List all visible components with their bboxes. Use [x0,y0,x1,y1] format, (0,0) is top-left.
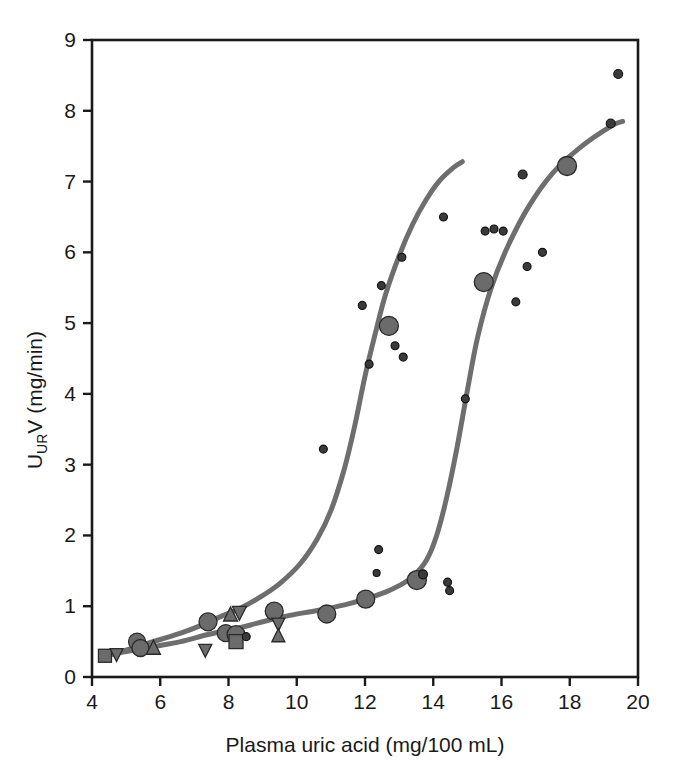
marker-dot [365,360,373,368]
marker-circle [199,613,217,631]
marker-dot [358,301,366,309]
y-axis-ticks [83,40,92,677]
marker-circle [558,156,577,175]
scatter-plot: 468101214161820 0123456789 Plasma uric a… [0,0,673,776]
marker-circle [474,273,493,292]
x-tick-label: 20 [626,690,649,713]
marker-square [98,649,111,662]
marker-dot [606,119,615,128]
x-tick-label: 18 [558,690,581,713]
y-tick-label: 1 [64,594,76,617]
y-axis-tick-labels: 0123456789 [64,28,76,688]
x-axis-title: Plasma uric acid (mg/100 mL) [226,733,505,756]
marker-dot [377,282,385,290]
marker-dot [538,248,546,256]
marker-circle [357,590,375,608]
marker-dot [444,578,452,586]
marker-dot [490,225,498,233]
marker-dot [375,546,383,554]
marker-dot [398,253,406,261]
marker-dot [481,227,489,235]
marker-circle [379,316,398,335]
y-tick-label: 8 [64,99,76,122]
marker-dot [461,395,469,403]
y-tick-label: 0 [64,665,76,688]
marker-dot [242,633,250,641]
y-axis-title-rest: V (mg/min) [23,331,46,434]
svg-text:UURV (mg/min): UURV (mg/min) [23,331,50,469]
marker-dot [373,569,380,576]
marker-dot [419,570,428,579]
x-tick-label: 16 [490,690,513,713]
marker-dot [614,69,623,78]
marker-triangle-down [199,644,212,657]
marker-dot [518,170,527,179]
marker-square [229,635,243,649]
data-markers [98,69,622,662]
y-tick-label: 2 [64,523,76,546]
x-tick-label: 6 [154,690,166,713]
y-tick-label: 6 [64,240,76,263]
marker-dot [512,298,520,306]
x-tick-label: 14 [422,690,446,713]
marker-dot [446,587,454,595]
y-tick-label: 4 [64,382,76,405]
x-tick-label: 10 [285,690,308,713]
plot-frame [92,40,638,677]
marker-triangle-up [272,629,285,642]
y-tick-label: 9 [64,28,76,51]
figure-container: 468101214161820 0123456789 Plasma uric a… [0,0,673,776]
y-axis-title: UURV (mg/min) [23,331,50,469]
x-axis-tick-labels: 468101214161820 [86,690,650,713]
marker-dot [319,445,327,453]
y-tick-label: 3 [64,453,76,476]
plot-frame-rect [92,40,638,677]
marker-dot [523,262,531,270]
x-tick-label: 12 [353,690,376,713]
marker-dot [439,213,447,221]
marker-dot [391,342,399,350]
marker-circle [318,605,336,623]
y-tick-label: 5 [64,311,76,334]
x-tick-label: 4 [86,690,98,713]
x-axis-ticks [92,677,638,686]
marker-dot [499,227,507,235]
fitted-curves [104,121,623,655]
x-tick-label: 8 [223,690,235,713]
y-tick-label: 7 [64,170,76,193]
y-axis-title-main: U [23,454,46,469]
y-axis-title-subscript: UR [34,434,50,454]
marker-dot [399,353,407,361]
